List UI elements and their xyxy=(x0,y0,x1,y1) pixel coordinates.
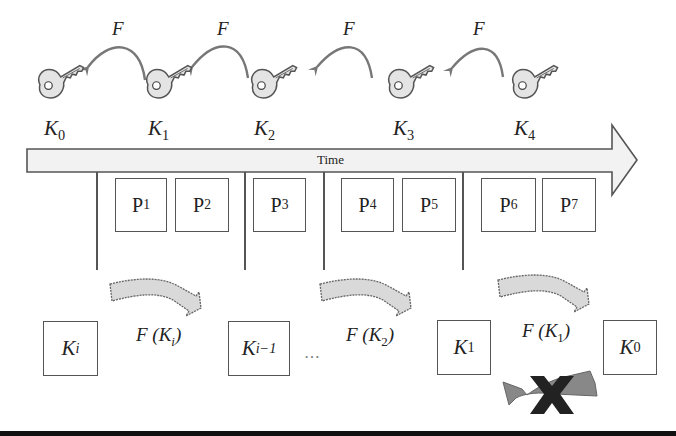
fat-arrow-f-k1 xyxy=(498,275,589,312)
interval-divider-2 xyxy=(244,172,246,270)
key-icon-k3 xyxy=(389,66,434,98)
f-label-2: F xyxy=(217,18,229,40)
key-icon-k2 xyxy=(252,66,297,98)
packet-box-p5: P5 xyxy=(402,178,456,232)
key-box-k0: K0 xyxy=(603,320,657,375)
f-curve-arrow-1 xyxy=(88,47,145,80)
f-curve-arrow-3 xyxy=(317,47,372,78)
f-curve-arrow-2 xyxy=(192,46,248,78)
key-box-ki: Ki xyxy=(43,321,98,376)
key-icon-k4 xyxy=(513,66,558,98)
packet-box-p7: P7 xyxy=(542,178,596,232)
key-icon-k1 xyxy=(147,66,192,98)
key-label-k4: K4 xyxy=(514,116,535,144)
packet-box-p1: P1 xyxy=(115,178,167,232)
key-label-k2: K2 xyxy=(254,116,275,144)
interval-divider-4 xyxy=(462,172,464,270)
blocked-reverse-arrow xyxy=(503,371,597,414)
packet-box-p3: P3 xyxy=(253,178,306,232)
fat-arrow-f-ki xyxy=(110,279,201,316)
key-box-ki-minus-1: Ki−1 xyxy=(228,321,290,376)
f-of-ki-label: F (Ki) xyxy=(136,324,181,350)
packet-box-p2: P2 xyxy=(175,178,229,232)
f-label-1: F xyxy=(112,18,124,40)
key-label-k0: K0 xyxy=(44,116,65,144)
f-of-k1-label: F (K1) xyxy=(522,320,570,346)
f-label-3: F xyxy=(343,18,355,40)
key-box-k1: K1 xyxy=(437,320,491,375)
fat-arrow-f-k2 xyxy=(320,279,411,316)
bottom-border-bar xyxy=(0,431,676,436)
f-curve-arrow-4 xyxy=(452,49,503,77)
interval-divider-3 xyxy=(323,172,325,270)
key-label-k3: K3 xyxy=(393,116,414,144)
ellipsis: … xyxy=(304,344,320,362)
f-of-k2-label: F (K2) xyxy=(346,324,394,350)
timeline-label: Time xyxy=(317,152,344,168)
packet-box-p6: P6 xyxy=(481,178,536,232)
key-label-k1: K1 xyxy=(148,116,169,144)
f-label-4: F xyxy=(473,18,485,40)
interval-divider-1 xyxy=(96,172,98,270)
packet-box-p4: P4 xyxy=(341,178,394,232)
key-icon-k0 xyxy=(39,66,84,98)
